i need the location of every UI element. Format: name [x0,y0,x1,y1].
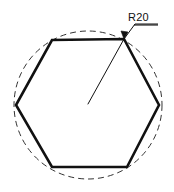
construction-circle [14,31,162,179]
dimension-label-r20: R20 [128,11,149,23]
radius-line [88,39,124,104]
dimension-leader-line [124,24,158,39]
hexagon-outline [16,39,159,167]
technical-drawing-canvas: R20 [0,0,174,192]
drawing-svg: R20 [0,0,174,192]
